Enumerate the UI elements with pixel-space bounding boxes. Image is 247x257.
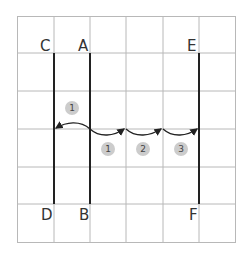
grid-diagram: C A E D B F 1 1 2 3 (0, 0, 247, 257)
label-f: F (189, 206, 198, 224)
badge-1-text: 1 (105, 144, 111, 154)
arc-left-arrow (56, 123, 90, 129)
label-b: B (79, 206, 89, 224)
label-e: E (187, 37, 196, 55)
arc-right-3-arrow (163, 129, 197, 135)
label-c: C (40, 37, 50, 55)
badge-left-text: 1 (69, 103, 75, 113)
arc-right-1-arrow (90, 129, 124, 135)
label-d: D (41, 206, 53, 224)
label-a: A (78, 37, 89, 55)
arc-right-2-arrow (126, 129, 161, 135)
badge-3-text: 3 (178, 144, 184, 154)
badge-2-text: 2 (140, 144, 146, 154)
